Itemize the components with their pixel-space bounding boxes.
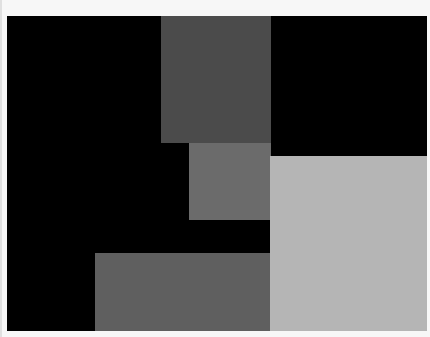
black-frame	[7, 16, 427, 331]
medium-gray-middle-block	[189, 143, 271, 220]
light-gray-right-block	[270, 156, 427, 331]
gray-bottom-block	[95, 253, 270, 331]
dark-gray-top-block	[161, 16, 271, 143]
left-edge-line	[0, 0, 2, 337]
image-canvas	[0, 0, 430, 337]
